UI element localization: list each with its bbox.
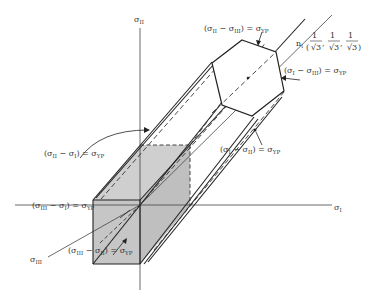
svg-text:1: 1: [348, 31, 353, 40]
sigma-iii-label: σIII: [30, 255, 42, 265]
plane-label-iii-i: (σIII − σI) = σYP: [32, 201, 95, 211]
svg-text:1: 1: [312, 31, 317, 40]
svg-text:(: (: [306, 43, 309, 52]
plane-label-ii-iii: (σII − σIII) = σYP: [204, 24, 269, 34]
plane-label-iii-ii: (σIII − σII) = σYP: [68, 246, 133, 256]
svg-text:√3: √3: [311, 43, 321, 52]
svg-text:): ): [358, 43, 361, 52]
svg-text:,: ,: [322, 39, 325, 48]
sigma-ii-label: σII: [134, 15, 144, 25]
plane-label-ii-i: (σII − σI) = σYP: [44, 149, 104, 159]
svg-text:1: 1: [330, 31, 335, 40]
svg-text:,: ,: [340, 39, 343, 48]
svg-text:ni: ni: [296, 39, 303, 49]
plane-label-i-ii: (σI − σII) = σYP: [220, 145, 280, 155]
tresca-diagram: σII σI σIII ni ( 1 √3 , 1 √3 , 1 √3 ) (σ…: [0, 0, 380, 293]
hexagon-center-dot: [247, 77, 250, 80]
sigma-i-label: σI: [334, 203, 342, 213]
plane-label-i-iii: (σI − σIII) = σYP: [284, 66, 347, 76]
svg-text:√3: √3: [347, 43, 357, 52]
svg-text:√3: √3: [329, 43, 339, 52]
